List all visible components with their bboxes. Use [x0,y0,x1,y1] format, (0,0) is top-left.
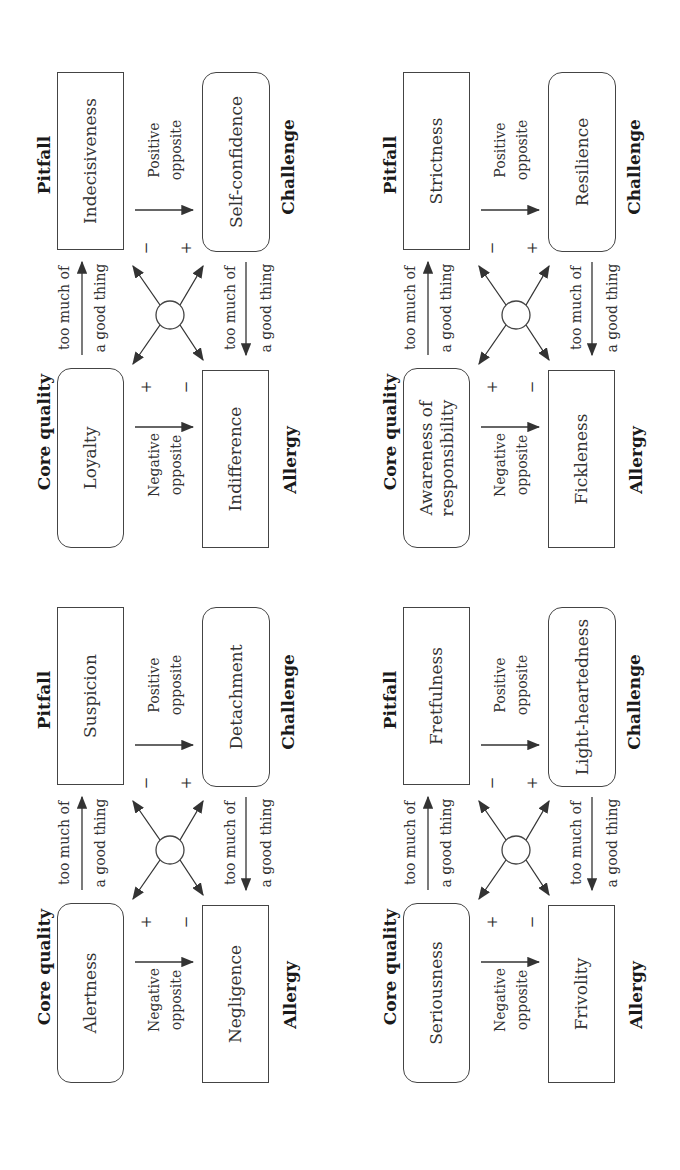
core-quadrant-figure: Core quality Loyalty Pitfall Indecisiven… [0,0,680,1170]
core-quadrant-responsibility: Core quality Awareness of responsibility… [346,72,680,592]
center-circle-icon [156,836,184,864]
center-circle-icon [502,301,530,329]
center-circle-icon [156,301,184,329]
core-quadrant-loyalty: Core quality Loyalty Pitfall Indecisiven… [0,72,340,592]
center-circle-icon [502,836,530,864]
arrows-overlay [0,607,340,1127]
core-quadrant-alertness: Core quality Alertness Pitfall Suspicion… [0,607,340,1127]
arrows-overlay [346,607,680,1127]
core-quadrant-seriousness: Core quality Seriousness Pitfall Fretful… [346,607,680,1127]
arrows-overlay [0,72,340,592]
arrows-overlay [346,72,680,592]
